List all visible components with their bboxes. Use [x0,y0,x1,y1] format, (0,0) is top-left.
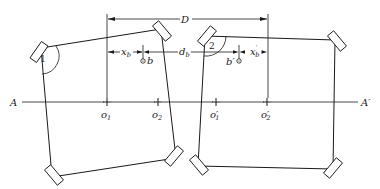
dimension-d-label: D [180,14,189,25]
corner-pad [165,146,184,166]
corner-pad [45,165,64,185]
svg-text:o1: o1 [101,109,111,122]
svg-text:o2: o2 [152,109,162,122]
axis-label-a-prime: A′ [360,97,371,108]
dimension-d: D [108,14,267,25]
corner-pad [328,31,347,51]
svg-text:o′1: o′1 [210,109,219,122]
panel-2-label: 2 [209,41,215,51]
point-b-label: b [147,55,153,66]
svg-text:o′2: o′2 [261,109,270,122]
dimension-xb-label: xb [121,46,131,59]
diagram-canvas: A A′ D xb b db b′ [0,0,380,189]
point-b-prime-label: b′ [226,56,235,67]
dimension-row: xb b db b′ x′b [108,44,267,67]
axis-label-a: A [9,97,17,108]
corner-pad [190,155,209,175]
dimension-db-label: db [179,46,190,59]
centerline-a-a-prime: A A′ [9,97,371,108]
dimension-xb-prime-label: x′b [250,44,259,59]
